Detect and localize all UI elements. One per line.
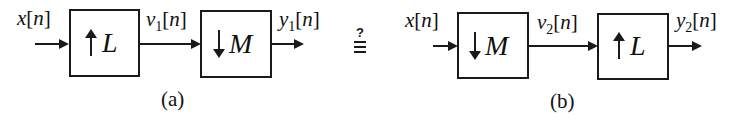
- arrow-head-icon: [692, 41, 702, 51]
- downsampler-block-b: M: [457, 12, 529, 79]
- factor-label-M: M: [229, 30, 252, 58]
- upsampler-block-b: L: [597, 13, 669, 80]
- signal-label-y1: y1[n]: [279, 9, 320, 34]
- signal-index: n: [421, 8, 432, 32]
- factor-label-L: L: [102, 29, 118, 57]
- signal-name: x: [405, 8, 414, 32]
- question-mark: ?: [352, 26, 368, 39]
- signal-index: n: [302, 7, 313, 31]
- signal-name: x: [17, 6, 26, 30]
- caption-a: (a): [161, 89, 184, 110]
- signal-name: v: [146, 7, 155, 31]
- signal-name: y: [676, 8, 685, 32]
- down-arrow-icon: [468, 32, 482, 60]
- bracket-close: ]: [313, 7, 320, 31]
- upsampler-op-b: L: [612, 32, 646, 60]
- factor-label-M: M: [485, 32, 508, 60]
- bracket-close: ]: [44, 6, 51, 30]
- bracket-close: ]: [710, 8, 717, 32]
- signal-index: n: [699, 8, 710, 32]
- down-arrow-icon: [212, 30, 226, 58]
- bracket-close: ]: [180, 7, 187, 31]
- factor-label-L: L: [630, 32, 646, 60]
- signal-label-x-b: x[n]: [405, 10, 439, 31]
- caption-b: (b): [550, 91, 575, 112]
- output-arrow-line-b: [669, 45, 694, 47]
- up-arrow-icon: [84, 29, 98, 57]
- signal-index: n: [33, 6, 44, 30]
- bracket-close: ]: [571, 10, 578, 34]
- mid-arrow-line-b: [529, 45, 589, 47]
- upsampler-op-a: L: [84, 29, 118, 57]
- downsampler-op-b: M: [468, 32, 508, 60]
- mid-arrow-line-a: [140, 43, 192, 45]
- signal-name: y: [279, 7, 288, 31]
- signal-label-v1: v1[n]: [146, 9, 187, 34]
- downsampler-op-a: M: [212, 30, 252, 58]
- arrow-head-icon: [294, 39, 304, 49]
- output-arrow-line-a: [272, 43, 296, 45]
- upsampler-block-a: L: [69, 9, 140, 77]
- equivalence-symbol: ?: [352, 26, 368, 54]
- downsampler-block-a: M: [200, 10, 272, 78]
- signal-index: n: [169, 7, 180, 31]
- bracket-close: ]: [432, 8, 439, 32]
- signal-index: n: [560, 10, 571, 34]
- equivalent-icon: [352, 40, 368, 54]
- arrow-head-icon: [59, 39, 69, 49]
- signal-label-y2: y2[n]: [676, 10, 717, 35]
- up-arrow-icon: [612, 32, 626, 60]
- signal-name: v: [537, 10, 546, 34]
- input-arrow-line-a: [35, 43, 61, 45]
- signal-label-x-a: x[n]: [17, 8, 51, 29]
- signal-label-v2: v2[n]: [537, 12, 578, 37]
